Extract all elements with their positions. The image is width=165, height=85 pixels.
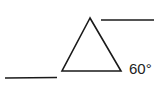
- lower-left-line: [5, 78, 57, 79]
- angle-label: 60°: [129, 60, 152, 77]
- triangle: [62, 18, 121, 71]
